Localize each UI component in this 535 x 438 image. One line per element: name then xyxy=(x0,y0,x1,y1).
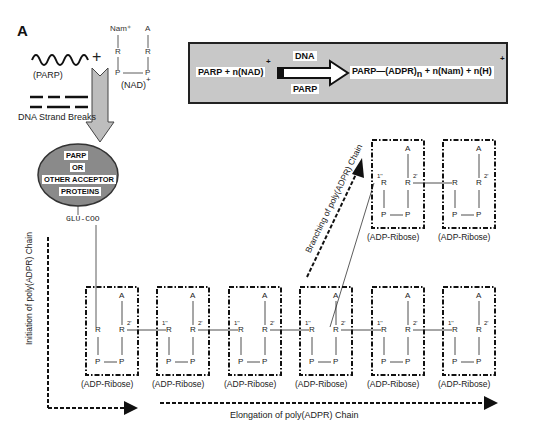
position-1: 1'' xyxy=(377,320,383,326)
adp-ribose-label: (ADP-Ribose) xyxy=(367,232,419,242)
atom-r: R xyxy=(452,178,458,187)
atom-a: A xyxy=(476,291,481,300)
atom-r: R xyxy=(166,325,172,334)
position-2: 2' xyxy=(127,320,131,326)
atom-r: R xyxy=(309,325,315,334)
atom-p: P xyxy=(166,357,171,366)
atom-p: P xyxy=(452,210,457,219)
position-1: 1'' xyxy=(234,320,240,326)
adp-ribose-label: (ADP-Ribose) xyxy=(224,379,276,389)
atom-p: P xyxy=(381,210,386,219)
position-2: 2' xyxy=(413,173,417,179)
atom-p: P xyxy=(452,357,457,366)
atom-p: P xyxy=(309,357,314,366)
adp-ribose-label: (ADP-Ribose) xyxy=(81,379,133,389)
atom-a: A xyxy=(405,291,410,300)
atom-r: R xyxy=(119,325,125,334)
adp-ribose-label: (ADP-Ribose) xyxy=(367,379,419,389)
position-2: 2' xyxy=(484,173,488,179)
atom-r: R xyxy=(262,325,268,334)
adp-ribose-label: (ADP-Ribose) xyxy=(295,379,347,389)
position-1: 1'' xyxy=(448,320,454,326)
position-2: 2' xyxy=(341,320,345,326)
atom-a: A xyxy=(405,144,410,153)
position-1: 1'' xyxy=(305,320,311,326)
atom-p: P xyxy=(333,357,338,366)
position-1: 1'' xyxy=(377,173,383,179)
atom-r: R xyxy=(405,325,411,334)
position-1: 1'' xyxy=(162,320,168,326)
atom-p: P xyxy=(119,357,124,366)
adp-ribose-label: (ADP-Ribose) xyxy=(438,379,490,389)
position-2: 2' xyxy=(270,320,274,326)
atom-r: R xyxy=(452,325,458,334)
atom-r: R xyxy=(333,325,339,334)
atom-p: P xyxy=(476,357,481,366)
atom-a: A xyxy=(119,291,124,300)
atom-a: A xyxy=(262,291,267,300)
atom-r: R xyxy=(238,325,244,334)
atom-p: P xyxy=(238,357,243,366)
atom-p: P xyxy=(405,210,410,219)
atom-p: P xyxy=(476,210,481,219)
atom-r: R xyxy=(405,178,411,187)
atom-p: P xyxy=(262,357,267,366)
adp-ribose-label: (ADP-Ribose) xyxy=(152,379,204,389)
atom-p: P xyxy=(190,357,195,366)
atom-r: R xyxy=(190,325,196,334)
atom-a: A xyxy=(190,291,195,300)
atom-r: R xyxy=(476,178,482,187)
atom-p: P xyxy=(405,357,410,366)
atom-r: R xyxy=(476,325,482,334)
atom-p: P xyxy=(95,357,100,366)
position-2: 2' xyxy=(484,320,488,326)
atom-r: R xyxy=(381,178,387,187)
position-2: 2' xyxy=(198,320,202,326)
atom-r: R xyxy=(95,325,101,334)
atom-r: R xyxy=(381,325,387,334)
atom-a: A xyxy=(476,144,481,153)
atom-p: P xyxy=(381,357,386,366)
position-2: 2' xyxy=(413,320,417,326)
adp-ribose-label: (ADP-Ribose) xyxy=(438,232,490,242)
atom-a: A xyxy=(333,291,338,300)
